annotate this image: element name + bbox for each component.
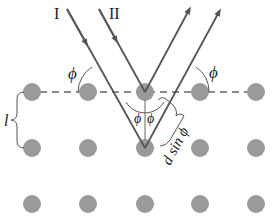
atom: [79, 83, 97, 101]
atom: [136, 195, 154, 213]
atom: [79, 195, 97, 213]
atom: [247, 195, 265, 213]
atom: [247, 83, 265, 101]
ray-label-1: I: [54, 5, 59, 22]
incident-ray-1-arrow: [67, 9, 86, 43]
angle-label-right: ϕ: [209, 63, 218, 82]
atom: [191, 195, 209, 213]
bragg-diagram: ϕ ϕ ϕ ϕ I II l d sin ϕ: [0, 0, 273, 220]
angle-label-center-left: ϕ: [134, 111, 141, 126]
angle-label-center-right: ϕ: [147, 111, 154, 126]
atom: [23, 83, 41, 101]
atom: [23, 139, 41, 157]
spacing-brace: [11, 92, 24, 148]
atom: [191, 83, 209, 101]
atom: [79, 139, 97, 157]
atom: [247, 139, 265, 157]
spacing-label: l: [4, 112, 9, 129]
atom: [191, 139, 209, 157]
ray-label-2: II: [109, 5, 120, 22]
angle-label-left: ϕ: [68, 64, 77, 83]
atom: [23, 195, 41, 213]
